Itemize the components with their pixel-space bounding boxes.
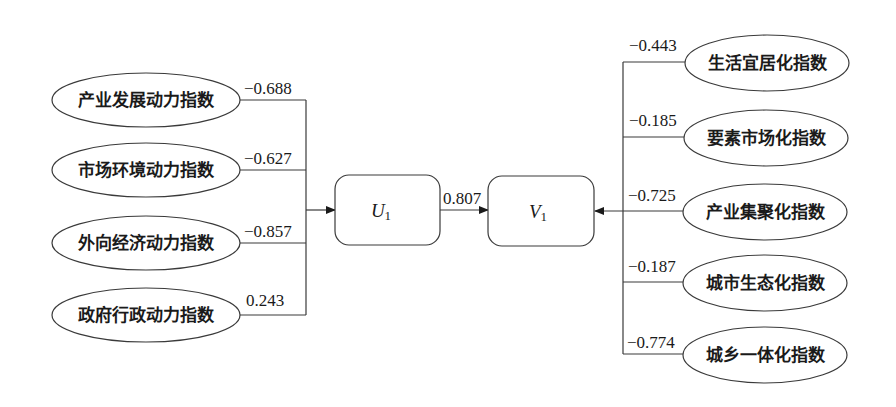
correlation-value: 0.807: [443, 189, 482, 208]
loading-value: −0.627: [244, 149, 292, 168]
right-indicator-5: 城乡一体化指数 −0.774: [623, 327, 847, 383]
left-indicator-1: 产业发展动力指数 −0.688: [52, 73, 306, 127]
indicator-label: 要素市场化指数: [707, 128, 827, 148]
indicator-label: 市场环境动力指数: [78, 160, 215, 180]
right-indicator-1: 生活宜居化指数 −0.443: [623, 35, 849, 91]
canonical-correlation-link: 0.807: [440, 189, 488, 210]
right-indicator-3: 产业集聚化指数 −0.725: [628, 184, 847, 240]
indicator-label: 产业集聚化指数: [706, 202, 826, 222]
loading-value: −0.185: [629, 111, 677, 130]
indicator-label: 产业发展动力指数: [78, 90, 215, 110]
left-indicator-2: 市场环境动力指数 −0.627: [52, 143, 306, 197]
loading-value: −0.187: [628, 257, 676, 276]
right-indicator-group: 生活宜居化指数 −0.443 要素市场化指数 −0.185 产业集聚化指数 −0…: [595, 35, 849, 383]
loading-value: −0.725: [628, 186, 676, 205]
indicator-label: 城市生态化指数: [706, 273, 826, 293]
u-variable-node: U1: [335, 175, 440, 245]
v-variable-node: V1: [488, 176, 594, 246]
indicator-label: 政府行政动力指数: [78, 305, 215, 325]
indicator-label: 城乡一体化指数: [706, 345, 826, 365]
canonical-correlation-diagram: 产业发展动力指数 −0.688 市场环境动力指数 −0.627 外向经济动力指数…: [0, 0, 896, 407]
indicator-label: 生活宜居化指数: [708, 53, 828, 73]
loading-value: 0.243: [246, 291, 284, 310]
left-indicator-group: 产业发展动力指数 −0.688 市场环境动力指数 −0.627 外向经济动力指数…: [52, 73, 335, 342]
left-indicator-4: 政府行政动力指数 0.243: [52, 288, 306, 342]
left-indicator-3: 外向经济动力指数 −0.857: [52, 216, 306, 270]
right-indicator-4: 城市生态化指数 −0.187: [623, 255, 847, 311]
loading-value: −0.774: [627, 333, 675, 352]
indicator-label: 外向经济动力指数: [78, 233, 215, 253]
loading-value: −0.443: [629, 36, 677, 55]
loading-value: −0.857: [244, 222, 292, 241]
loading-value: −0.688: [244, 79, 292, 98]
right-indicator-2: 要素市场化指数 −0.185: [623, 110, 848, 166]
